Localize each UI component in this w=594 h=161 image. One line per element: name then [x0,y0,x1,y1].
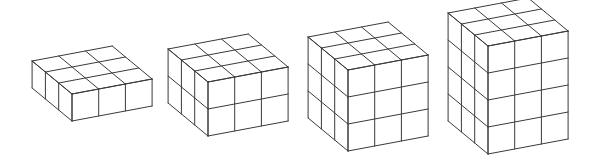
cube-stack-2 [168,34,288,136]
cube-stack-3 [308,22,428,151]
cube-stack-1 [32,46,152,121]
cube-stack-4 [448,0,568,154]
front-face [348,55,428,151]
cube-stacks-canvas [0,0,594,161]
cube-stacks-figure: Sequence of four cube stacks built from … [0,0,594,161]
